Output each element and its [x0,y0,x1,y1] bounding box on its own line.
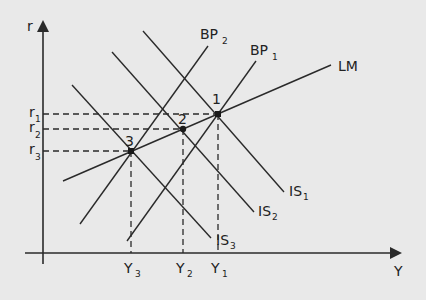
point-2-label: 2 [178,111,187,127]
is2-label: IS 2 [258,203,278,222]
svg-text:Y: Y [123,260,133,276]
is1-label: IS 1 [289,183,309,202]
point-3-label: 3 [125,133,134,149]
svg-text:LM: LM [338,58,358,74]
svg-text:3: 3 [135,269,141,279]
svg-text:Y: Y [175,260,185,276]
svg-text:Y: Y [210,260,220,276]
svg-text:3: 3 [35,152,41,162]
svg-text:3: 3 [230,241,236,251]
svg-text:2: 2 [187,269,193,279]
y1-label: Y 1 [210,260,228,279]
y-axis-label: r [27,18,33,34]
r3-label: r 3 [29,141,41,162]
y3-label: Y 3 [123,260,141,279]
svg-text:1: 1 [272,52,278,62]
point-1-label: 1 [212,91,221,107]
svg-text:BP: BP [200,26,218,42]
svg-text:2: 2 [272,212,278,222]
is-lm-bp-diagram: r Y 1 2 3 LM BP 2 BP 1 IS [0,0,426,300]
is3-curve [72,85,211,238]
x-axis-arrow-icon [390,247,402,259]
y2-label: Y 2 [175,260,193,279]
bp1-curve [127,61,256,241]
svg-text:1: 1 [303,192,309,202]
svg-text:IS: IS [216,232,229,248]
curves [63,31,331,241]
bp2-curve [80,46,208,224]
is3-label: IS 3 [216,232,236,251]
lm-curve [63,65,331,181]
lm-label: LM [338,58,358,74]
svg-text:1: 1 [222,269,228,279]
svg-text:IS: IS [289,183,302,199]
svg-text:IS: IS [258,203,271,219]
x-axis-label: Y [393,263,403,279]
svg-text:2: 2 [222,36,228,46]
bp1-label: BP 1 [250,42,278,62]
svg-text:BP: BP [250,42,268,58]
y-axis-arrow-icon [37,20,49,32]
svg-text:2: 2 [35,130,41,140]
svg-text:1: 1 [35,114,41,124]
bp2-label: BP 2 [200,26,228,46]
point-1-marker [215,111,221,117]
